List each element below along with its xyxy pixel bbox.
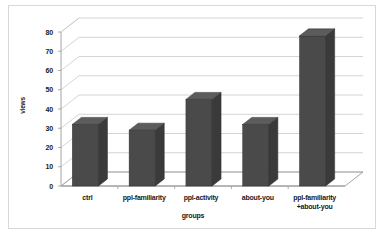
y-axis-title: views xyxy=(19,86,26,126)
y-tick-label-40: 40 xyxy=(31,106,53,113)
y-tick-label-30: 30 xyxy=(31,125,53,132)
y-tick-label-50: 50 xyxy=(31,86,53,93)
y-tick-label-60: 60 xyxy=(31,67,53,74)
bar-3 xyxy=(243,117,278,186)
bar-2 xyxy=(186,92,221,186)
x-axis-title: groups xyxy=(9,212,377,219)
chart-frame: views groups 01020304050607080ctrlppl-fa… xyxy=(8,5,376,229)
y-tick-label-80: 80 xyxy=(31,29,53,36)
plot-area: views groups 01020304050607080ctrlppl-fa… xyxy=(9,6,377,230)
bar-4 xyxy=(300,29,335,186)
y-tick-label-20: 20 xyxy=(31,144,53,151)
y-tick-label-70: 70 xyxy=(31,48,53,55)
y-tick-label-0: 0 xyxy=(31,183,53,190)
y-tick-label-10: 10 xyxy=(31,163,53,170)
bar-1 xyxy=(129,123,164,186)
bar-0 xyxy=(72,117,107,186)
x-tick-label-4: ppl-familiarity+about-you xyxy=(279,194,350,211)
